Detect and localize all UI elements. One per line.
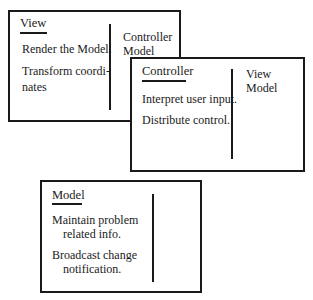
model-divider (152, 194, 154, 282)
controller-card-title: Controller (142, 64, 193, 79)
view-divider (109, 24, 111, 110)
model-card-title: Model (52, 188, 85, 203)
model-responsibility-1: Maintain problem (52, 213, 138, 227)
model-card: Model Maintain problem related info. Bro… (40, 180, 202, 293)
view-collaborator-2: Model (123, 44, 154, 58)
model-title-underline (52, 203, 82, 205)
view-responsibility-2: Transform coordi- (22, 64, 110, 78)
controller-title-underline (142, 80, 186, 82)
view-responsibility-3: nates (22, 80, 47, 94)
controller-collaborator-2: Model (246, 81, 277, 95)
view-card-title: View (20, 16, 46, 31)
model-responsibility-2: related info. (63, 227, 121, 241)
controller-divider (231, 69, 233, 159)
model-responsibility-4: notification. (63, 262, 121, 276)
view-title-underline (20, 32, 47, 34)
model-responsibility-3: Broadcast change (52, 248, 137, 262)
controller-card: Controller Interpret user input. Distrib… (130, 57, 305, 172)
view-collaborator-1: Controller (123, 30, 172, 44)
controller-collaborator-1: View (246, 67, 271, 81)
controller-responsibility-1: Interpret user input. (142, 92, 237, 106)
controller-responsibility-2: Distribute control. (142, 113, 230, 127)
view-responsibility-1: Render the Model. (22, 42, 112, 56)
